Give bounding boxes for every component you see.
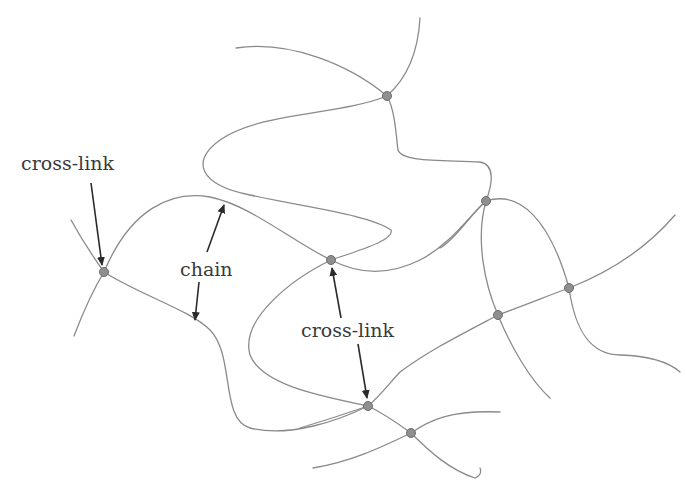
crosslink-node — [494, 311, 503, 320]
arrow-icon — [332, 268, 341, 318]
crosslink-label: cross-link — [301, 319, 394, 341]
crosslink-node — [565, 284, 574, 293]
chain — [104, 272, 368, 431]
chain-label: chain — [180, 258, 233, 280]
arrow-icon — [358, 344, 367, 398]
crosslink-node — [407, 429, 416, 438]
crosslink-node — [364, 402, 373, 411]
crosslink-node — [482, 197, 491, 206]
crosslink-node — [327, 256, 336, 265]
chain — [300, 406, 368, 428]
polymer-chains — [71, 18, 680, 478]
crosslink-nodes — [100, 92, 574, 438]
chain — [387, 96, 491, 201]
polymer-network-diagram: cross-link chain cross-link — [0, 0, 686, 484]
chain — [486, 199, 569, 288]
annotation-arrows — [91, 183, 367, 398]
chain — [203, 96, 391, 260]
chain — [387, 18, 420, 96]
chain — [331, 201, 486, 271]
chain — [411, 412, 500, 433]
arrow-icon — [207, 205, 224, 252]
chain — [368, 406, 411, 433]
chain — [313, 433, 411, 468]
chain — [498, 288, 569, 315]
arrow-icon — [91, 183, 102, 265]
chain — [411, 433, 481, 478]
chain — [498, 315, 550, 398]
arrow-icon — [195, 282, 199, 320]
chain — [74, 272, 104, 336]
chain — [481, 201, 498, 315]
crosslink-node — [100, 268, 109, 277]
crosslink-node — [383, 92, 392, 101]
chain — [236, 46, 387, 96]
crosslink-label: cross-link — [21, 152, 114, 174]
chain — [569, 215, 675, 288]
chain — [569, 288, 680, 372]
